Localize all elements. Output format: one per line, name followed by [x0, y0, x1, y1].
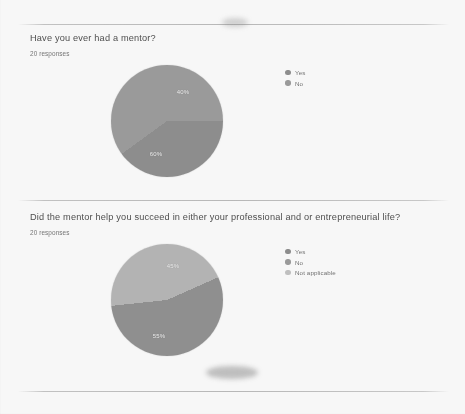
- slice-label-no-1: 60%: [150, 151, 163, 157]
- response-count-2: 20 responses: [30, 229, 465, 236]
- pie-graphic-1: 40% 60%: [111, 65, 223, 177]
- response-count-1: 20 responses: [30, 50, 465, 57]
- legend-item-not-applicable-2[interactable]: Not applicable: [285, 269, 336, 276]
- page-title: Have you ever had a mentor?: [30, 33, 465, 43]
- legend-2: Yes No Not applicable: [285, 248, 336, 280]
- pie-graphic-2: 45% 55%: [111, 244, 223, 356]
- legend-label-not-applicable-2: Not applicable: [295, 269, 336, 276]
- legend-item-no-2[interactable]: No: [285, 259, 336, 266]
- legend-swatch-icon: [285, 249, 291, 255]
- legend-label-no-2: No: [295, 259, 303, 266]
- legend-swatch-icon: [285, 270, 291, 276]
- pie-chart-2: 45% 55%: [111, 244, 223, 356]
- legend-item-no-1[interactable]: No: [285, 80, 305, 87]
- legend-item-yes-1[interactable]: Yes: [285, 69, 305, 76]
- section-separator-bottom: [18, 391, 449, 392]
- slice-label-yes-1: 40%: [177, 89, 190, 95]
- pie-chart-1: 40% 60%: [111, 65, 223, 177]
- legend-label-no-1: No: [295, 80, 303, 87]
- legend-swatch-icon: [285, 259, 291, 265]
- section-separator-top: [18, 24, 449, 25]
- form-results-page: Have you ever had a mentor? 20 responses…: [0, 0, 465, 414]
- chart-area-1: 40% 60% Yes No: [0, 65, 465, 189]
- section-separator-middle: [18, 200, 449, 201]
- chart-area-2: 45% 55% Yes No Not applicable: [0, 244, 465, 368]
- legend-swatch-icon: [285, 80, 291, 86]
- slice-label-yes-2: 45%: [167, 263, 180, 269]
- legend-1: Yes No: [285, 69, 305, 90]
- slice-label-no-2: 55%: [153, 333, 166, 339]
- scan-artifact-top: [222, 18, 248, 27]
- question-block-1: Have you ever had a mentor? 20 responses…: [0, 33, 465, 189]
- legend-label-yes-2: Yes: [295, 248, 305, 255]
- legend-swatch-icon: [285, 70, 291, 76]
- question-block-2: Did the mentor help you succeed in eithe…: [0, 212, 465, 368]
- legend-item-yes-2[interactable]: Yes: [285, 248, 336, 255]
- legend-label-yes-1: Yes: [295, 69, 305, 76]
- question-title-2: Did the mentor help you succeed in eithe…: [30, 212, 465, 222]
